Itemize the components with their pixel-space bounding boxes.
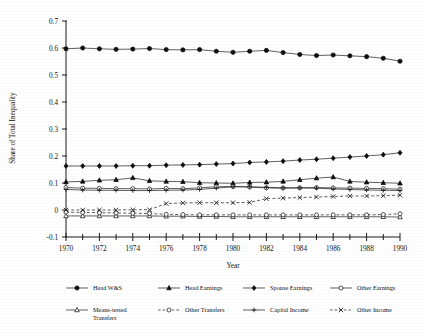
- svg-text:0.4: 0.4: [49, 99, 58, 107]
- svg-text:0.7: 0.7: [49, 18, 58, 26]
- svg-text:1984: 1984: [293, 245, 308, 253]
- svg-text:0.5: 0.5: [49, 72, 58, 80]
- legend-label: Means-tested: [93, 306, 127, 313]
- legend-label: Head W&S: [93, 284, 123, 291]
- legend-label: Other Earnings: [357, 284, 396, 291]
- y-axis-title: Share of Total Inequality: [9, 92, 17, 164]
- legend-label: Spouse Earnings: [270, 284, 313, 291]
- svg-text:0.3: 0.3: [49, 126, 58, 134]
- svg-text:0.6: 0.6: [49, 45, 58, 53]
- x-axis-title: Year: [226, 262, 240, 270]
- svg-text:1988: 1988: [359, 245, 374, 253]
- legend-label: Head Earnings: [185, 284, 223, 291]
- svg-text:1978: 1978: [192, 245, 207, 253]
- legend-label: Other Transfers: [185, 306, 225, 313]
- legend-label: Other Income: [357, 306, 392, 313]
- svg-text:1970: 1970: [59, 245, 74, 253]
- svg-text:1982: 1982: [259, 245, 274, 253]
- svg-text:1976: 1976: [159, 245, 174, 253]
- legend-label-continued: Transfers: [93, 314, 117, 321]
- svg-text:1972: 1972: [92, 245, 107, 253]
- svg-text:1990: 1990: [393, 245, 408, 253]
- svg-text:0.2: 0.2: [49, 153, 58, 161]
- svg-text:-0.1: -0.1: [47, 234, 59, 242]
- legend-label: Capital Income: [270, 306, 309, 313]
- svg-text:1986: 1986: [326, 245, 341, 253]
- svg-text:1980: 1980: [226, 245, 241, 253]
- svg-text:0.1: 0.1: [49, 180, 58, 188]
- svg-text:1974: 1974: [126, 245, 141, 253]
- inequality-decomposition-chart: 0.70.60.50.40.30.20.10-0.1 1970197219741…: [0, 0, 424, 336]
- svg-text:0: 0: [54, 207, 58, 215]
